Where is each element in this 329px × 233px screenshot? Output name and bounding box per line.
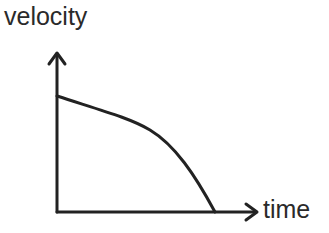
velocity-curve: [57, 96, 215, 212]
velocity-time-diagram: velocity time: [0, 0, 329, 233]
x-axis-label: time: [263, 197, 310, 222]
y-axis-label: velocity: [4, 4, 87, 29]
